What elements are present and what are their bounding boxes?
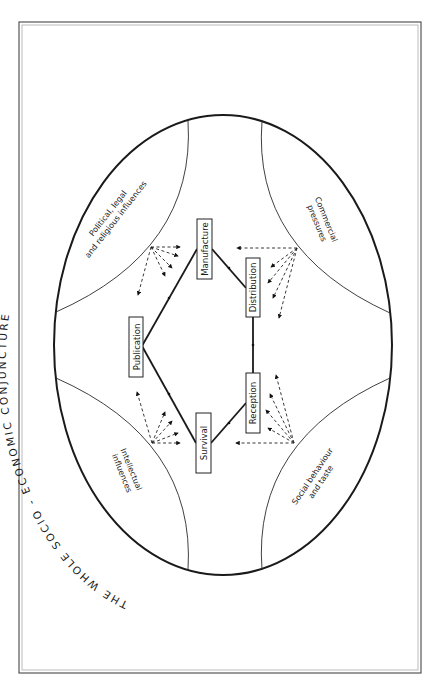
svg-text:Survival: Survival <box>199 426 209 460</box>
svg-text:Manufacture: Manufacture <box>200 222 210 275</box>
stage-publication: Publication <box>129 317 143 377</box>
zone-commercial-label: Commercial pressures <box>304 196 340 247</box>
svg-text:Reception: Reception <box>248 382 258 424</box>
diagram-canvas: THE WHOLE SOCIO - ECONOMIC CONJUNCTURE P… <box>0 0 440 692</box>
zone-social-label: Social behaviour and taste <box>290 446 343 512</box>
social-influence-arrows <box>236 375 294 443</box>
stage-distribution: Distribution <box>246 258 260 317</box>
diagram-group: THE WHOLE SOCIO - ECONOMIC CONJUNCTURE P… <box>0 115 392 612</box>
intellectual-influence-arrows <box>137 392 180 443</box>
svg-text:Publication: Publication <box>132 324 142 371</box>
stage-survival: Survival <box>196 413 211 473</box>
stage-reception: Reception <box>246 373 260 433</box>
conjuncture-ellipse <box>54 115 392 575</box>
political-influence-arrows <box>138 247 180 295</box>
stage-manufacture: Manufacture <box>197 219 212 279</box>
zone-political-label: Political, legal and religious influence… <box>75 173 148 260</box>
svg-text:Distribution: Distribution <box>248 263 258 313</box>
svg-text:and religious influences: and religious influences <box>83 179 149 259</box>
zone-intellectual-label: Intellectual influences <box>109 447 143 495</box>
